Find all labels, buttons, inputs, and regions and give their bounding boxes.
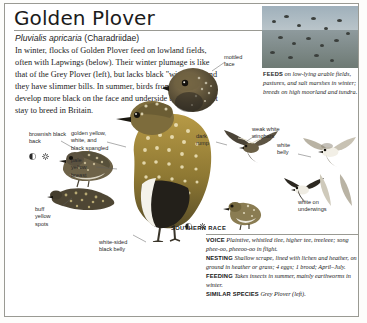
photo-bird	[320, 44, 324, 47]
white-belly-label: white belly	[277, 142, 290, 157]
photo-bird	[324, 27, 328, 30]
white-sided-black-belly-label: white-sided black belly	[99, 239, 127, 254]
info-key: VOICE	[206, 237, 225, 243]
southern-race-illustration	[222, 196, 264, 230]
golden-spangled-label: golden yellow, white, and black spangled	[71, 130, 108, 152]
photo-bird	[288, 56, 293, 59]
info-key: NESTING	[206, 255, 233, 261]
photo-bird	[284, 15, 289, 18]
info-key: SIMILAR SPECIES	[206, 291, 259, 297]
info-value: Grey Plover (left).	[260, 290, 305, 297]
photo-bird	[270, 51, 275, 54]
spots-leader	[60, 196, 74, 208]
info-row: VOICE Plaintive, whistled tlee, higher t…	[206, 236, 358, 254]
info-value: Plaintive, whistled tlee, higher tee, tr…	[206, 236, 349, 252]
info-box: VOICE Plaintive, whistled tlee, higher t…	[206, 236, 358, 300]
white-on-underwings-label: white on underwings	[298, 199, 327, 214]
lapwing-illustration	[46, 182, 118, 214]
scientific-name: Pluvialis apricaria (Charadriidae)	[15, 33, 139, 43]
photo-bird	[311, 17, 316, 20]
feeds-caption: FEEDS on low-lying arable fields, pastur…	[263, 70, 359, 97]
sun-icon	[42, 153, 49, 160]
rump-leader	[215, 138, 229, 148]
buff-yellow-spots-label: buff yellow spots	[35, 206, 51, 228]
feeds-caption-keyword: FEEDS	[263, 71, 283, 77]
scientific-name-latin: Pluvialis apricaria	[15, 33, 82, 43]
spangled-leader	[106, 140, 128, 150]
pale-yellow-breast-label: pale yellow breast	[71, 157, 87, 179]
belly-leader	[130, 233, 148, 245]
southern-race-caption: SOUTHERN RACE	[171, 225, 226, 231]
mottled-face-label: mottled face	[224, 54, 242, 69]
dark-rump-label: dark rump	[196, 133, 209, 148]
moon-icon	[29, 153, 36, 160]
photo-bird	[272, 20, 276, 23]
family-name: (Charadriidae)	[84, 33, 139, 43]
wingbars-leader	[246, 133, 258, 143]
info-row: NESTING Shallow scrape, lined with liche…	[206, 254, 358, 272]
info-row: SIMILAR SPECIES Grey Plover (left).	[206, 290, 358, 299]
photo-bird	[346, 32, 350, 35]
season-symbols-winter	[29, 146, 49, 164]
photo-bird	[292, 42, 296, 45]
page-title: Golden Plover	[14, 6, 155, 30]
photo-bird	[278, 36, 283, 39]
photo-bird	[330, 59, 334, 62]
info-row: FEEDING Takes insects in summer, mainly …	[206, 272, 358, 290]
white-belly-leader	[297, 152, 313, 160]
field-guide-page: Golden Plover Pluvialis apricaria (Chara…	[0, 0, 367, 323]
photo-bird	[306, 37, 311, 40]
info-key: FEEDING	[206, 273, 233, 279]
mottled-face-leader	[208, 60, 226, 74]
photo-bird	[297, 24, 301, 27]
photo-bird	[314, 54, 319, 57]
photo-bird	[334, 39, 339, 42]
photo-bird	[337, 19, 342, 22]
breast-leader	[95, 163, 119, 173]
flock-photograph	[262, 6, 358, 68]
info-box-rule	[206, 234, 358, 235]
flight-bird-underside-illustration	[300, 126, 358, 170]
